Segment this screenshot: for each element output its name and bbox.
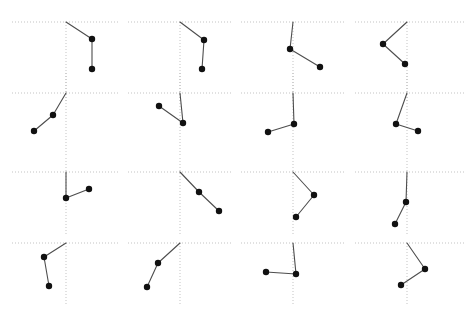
panel-13-marker-2 xyxy=(41,254,47,260)
panel-2-marker-2 xyxy=(201,37,207,43)
small-multiples-figure xyxy=(0,0,476,322)
panel-8 xyxy=(355,73,465,155)
panel-1-marker-2 xyxy=(89,36,95,42)
panel-2-trajectory-line xyxy=(180,22,204,69)
panel-3 xyxy=(241,22,345,102)
panel-11 xyxy=(241,158,345,236)
panel-6 xyxy=(128,73,232,155)
panel-3-trajectory-line xyxy=(290,22,320,67)
panel-6-marker-2 xyxy=(180,120,186,126)
panel-10-marker-3 xyxy=(216,208,222,214)
panel-14-marker-2 xyxy=(155,260,161,266)
panel-14-trajectory-line xyxy=(147,243,180,287)
panel-8-marker-2 xyxy=(393,121,399,127)
panel-9-trajectory-line xyxy=(66,172,89,198)
panel-5-marker-2 xyxy=(50,112,56,118)
panel-13 xyxy=(12,243,118,305)
panel-7 xyxy=(241,73,345,155)
panel-4 xyxy=(355,22,465,102)
panel-15-marker-2 xyxy=(293,271,299,277)
panel-12-marker-2 xyxy=(403,199,409,205)
panel-16 xyxy=(355,243,465,305)
panel-10-marker-2 xyxy=(196,189,202,195)
panel-7-trajectory-line xyxy=(268,93,294,132)
panel-9-marker-3 xyxy=(86,186,92,192)
panel-11-marker-3 xyxy=(293,214,299,220)
panel-1-trajectory-line xyxy=(66,22,92,69)
panel-12-trajectory-line xyxy=(395,172,407,224)
panel-1-marker-3 xyxy=(89,66,95,72)
panel-9 xyxy=(12,158,118,236)
panel-2-marker-3 xyxy=(199,66,205,72)
panel-15 xyxy=(241,243,345,305)
panel-7-marker-2 xyxy=(291,121,297,127)
panel-4-marker-3 xyxy=(402,61,408,67)
panel-15-trajectory-line xyxy=(266,243,296,274)
panel-14 xyxy=(128,243,232,305)
panel-16-trajectory-line xyxy=(401,243,425,285)
panel-4-trajectory-line xyxy=(383,22,407,64)
panel-11-marker-2 xyxy=(311,192,317,198)
panel-5 xyxy=(12,73,118,155)
trajectory-grid-svg xyxy=(0,0,476,322)
panel-16-marker-3 xyxy=(398,282,404,288)
panel-4-marker-2 xyxy=(380,41,386,47)
panel-7-marker-3 xyxy=(265,129,271,135)
panel-12-marker-3 xyxy=(392,221,398,227)
panel-15-marker-3 xyxy=(263,269,269,275)
panel-1 xyxy=(12,22,118,102)
panel-6-trajectory-line xyxy=(159,93,183,123)
panel-14-marker-3 xyxy=(144,284,150,290)
panel-3-marker-3 xyxy=(317,64,323,70)
panel-9-marker-2 xyxy=(63,195,69,201)
panel-3-marker-2 xyxy=(287,46,293,52)
panel-12 xyxy=(355,158,465,236)
panel-2 xyxy=(128,22,232,102)
panel-13-marker-3 xyxy=(46,283,52,289)
panel-8-marker-3 xyxy=(415,128,421,134)
panel-16-marker-2 xyxy=(422,266,428,272)
panel-10 xyxy=(128,158,232,236)
panel-13-trajectory-line xyxy=(44,243,66,286)
panel-6-marker-3 xyxy=(156,103,162,109)
panel-5-marker-3 xyxy=(31,128,37,134)
panel-5-trajectory-line xyxy=(34,93,66,131)
